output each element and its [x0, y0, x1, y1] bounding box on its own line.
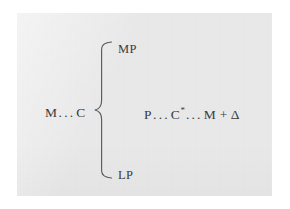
left-term-suffix: C: [76, 105, 86, 120]
figure-root: M...C MP LP P...C*...M + Δ: [0, 0, 290, 209]
left-term-ellipsis: ...: [58, 105, 77, 120]
left-term-expression: M...C: [45, 106, 86, 120]
branch-label-lp: LP: [118, 169, 133, 182]
left-term-prefix: M: [45, 105, 58, 120]
right-term-first: P: [144, 107, 152, 122]
curly-brace: [93, 40, 115, 180]
right-term-addend: Δ: [231, 107, 240, 122]
right-term-expression: P...C*...M + Δ: [144, 106, 240, 121]
right-term-ellipsis-2: ...: [185, 107, 204, 122]
branch-label-mp: MP: [118, 43, 137, 56]
right-term-ellipsis-1: ...: [152, 107, 171, 122]
right-term-third: M: [204, 107, 217, 122]
right-term-second: C: [171, 107, 181, 122]
